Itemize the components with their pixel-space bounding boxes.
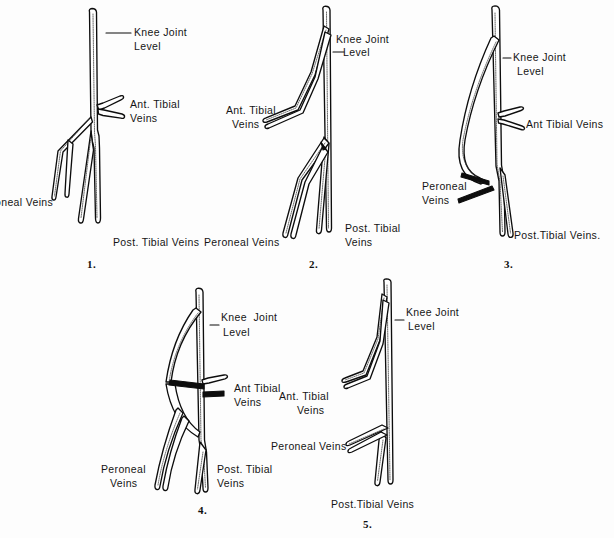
label-knee-joint: Knee Joint xyxy=(221,311,277,325)
label-knee-joint: Knee Joint xyxy=(513,51,566,65)
illustration-plate: Knee Joint Level Ant. Tibial Veins oneal… xyxy=(0,0,614,538)
label-post-tibial-veins: Post.Tibial Veins. xyxy=(514,229,600,243)
figure-3: Knee Joint Level Ant Tibial Veins Perone… xyxy=(410,0,614,275)
vein-popliteal-trunk xyxy=(89,9,100,224)
figure-number-4: 4. xyxy=(198,504,207,516)
label-post-tibial-veins: Post.Tibial Veins xyxy=(331,498,414,512)
label-peroneal-veins: Peroneal Veins xyxy=(204,236,280,250)
label-peroneal-veins: Peroneal Veins xyxy=(271,440,347,454)
label-post-tibial-line2: Veins xyxy=(345,236,372,250)
label-post-tibial-line2: Veins xyxy=(217,477,244,491)
figure-number-1: 1. xyxy=(87,258,96,270)
figure-number-5: 5. xyxy=(363,518,372,530)
vein-ant-tibial-upper xyxy=(97,96,124,110)
label-ant-tibial: Ant Tibial xyxy=(234,382,281,396)
label-ant-tibial: Ant. Tibial xyxy=(226,104,276,118)
upper-loop-shading xyxy=(169,313,198,382)
label-ant-tibial-line2: Veins xyxy=(130,112,157,126)
vein-ant-tibial-upper xyxy=(498,107,523,117)
label-peroneal: Peroneal xyxy=(101,463,146,477)
label-knee-level: Level xyxy=(134,40,161,54)
figure-number-3: 3. xyxy=(504,258,513,270)
label-peroneal-line2: Veins xyxy=(422,194,449,208)
vein-ant-tibial-lower xyxy=(203,391,224,397)
vein-ant-tibial-upper xyxy=(202,375,227,384)
label-knee-joint: Knee Joint xyxy=(406,306,459,320)
label-knee-level: Level xyxy=(343,46,370,60)
label-ant-tibial: Ant. Tibial xyxy=(130,98,180,112)
label-peroneal-veins: oneal Veins xyxy=(0,196,53,210)
vein-ant-tibial-lower xyxy=(498,119,525,130)
label-post-tibial-veins: Post. Tibial Veins xyxy=(113,236,199,250)
label-knee-joint: Knee Joint xyxy=(134,26,187,40)
label-knee-joint: Knee Joint xyxy=(336,33,389,47)
figure-2: Knee Joint Level Ant. Tibial Veins Peron… xyxy=(205,0,410,275)
label-ant-tibial: Ant. Tibial xyxy=(279,390,329,404)
label-knee-level: Level xyxy=(408,320,435,334)
label-peroneal: Peroneal xyxy=(422,180,467,194)
label-ant-tibial-veins: Ant Tibial Veins xyxy=(526,118,603,132)
label-knee-level: Level xyxy=(517,65,544,79)
figure-1: Knee Joint Level Ant. Tibial Veins oneal… xyxy=(0,0,205,275)
figure-number-2: 2. xyxy=(309,258,318,270)
label-ant-tibial-line2: Veins xyxy=(297,404,324,418)
label-post-tibial: Post. Tibial xyxy=(217,463,273,477)
label-peroneal-line2: Veins xyxy=(110,477,137,491)
figure-5: Knee Joint Level Ant. Tibial Veins Peron… xyxy=(300,280,505,538)
label-post-tibial: Post. Tibial xyxy=(345,222,401,236)
label-ant-tibial-line2: Veins xyxy=(232,118,259,132)
label-knee-level: Level xyxy=(223,326,250,340)
label-ant-tibial-line2: Veins xyxy=(234,396,261,410)
figure-1-drawing xyxy=(0,0,205,275)
vein-ant-tibial-lower xyxy=(98,109,125,118)
